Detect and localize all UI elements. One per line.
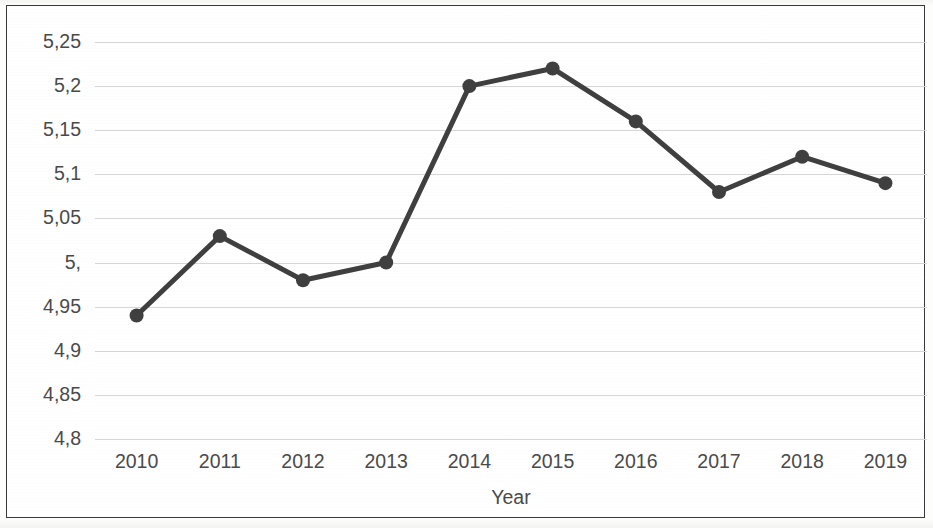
x-axis-tick-label: 2018	[780, 452, 823, 472]
data-point-marker	[878, 176, 892, 190]
x-axis-tick-label: 2011	[199, 452, 241, 472]
y-axis-tick-label: 5,1	[54, 164, 81, 184]
x-axis-tick-label: 2017	[697, 452, 740, 472]
y-axis-tick-label: 4,8	[54, 429, 81, 449]
line-series-svg	[95, 42, 927, 439]
data-point-marker	[629, 114, 643, 128]
x-axis-tick-label: 2012	[281, 452, 324, 472]
y-axis-tick-label: 5,05	[43, 208, 81, 228]
x-axis-tick-label: 2015	[531, 452, 574, 472]
x-axis-tick-label: 2014	[448, 452, 491, 472]
x-axis-tick-label: 2016	[614, 452, 657, 472]
data-point-marker	[296, 273, 310, 287]
data-point-marker	[546, 61, 560, 75]
gridline	[95, 439, 927, 440]
plot-area	[95, 42, 927, 439]
x-axis-tick-label: 2013	[364, 452, 407, 472]
data-point-marker	[462, 79, 476, 93]
chart-frame: 5,255,25,155,15,055,4,954,94,854,8 20102…	[6, 5, 925, 518]
chart-figure: 5,255,25,155,15,055,4,954,94,854,8 20102…	[0, 0, 933, 528]
y-axis-tick-label: 4,9	[54, 341, 81, 361]
y-axis-tick-label: 4,85	[43, 385, 81, 405]
data-point-marker	[795, 150, 809, 164]
y-axis-tick-label: 5,15	[43, 120, 81, 140]
y-axis-tick-label: 5,2	[54, 76, 81, 96]
data-point-marker	[712, 185, 726, 199]
data-point-marker	[130, 308, 144, 322]
y-axis-tick-label: 4,95	[43, 297, 81, 317]
data-point-marker	[213, 229, 227, 243]
y-axis-tick-label: 5,25	[43, 32, 81, 52]
data-point-marker	[379, 256, 393, 270]
y-axis-tick-label: 5,	[65, 253, 81, 273]
x-axis-tick-label: 2010	[115, 452, 158, 472]
y-axis-tick-labels: 5,255,25,155,15,055,4,954,94,854,8	[7, 42, 81, 439]
x-axis-tick-labels: 2010201120122013201420152016201720182019	[95, 452, 927, 480]
x-axis-tick-label: 2019	[864, 452, 907, 472]
x-axis-title: Year	[95, 488, 927, 508]
series-line	[137, 68, 886, 315]
series-markers	[130, 61, 893, 322]
